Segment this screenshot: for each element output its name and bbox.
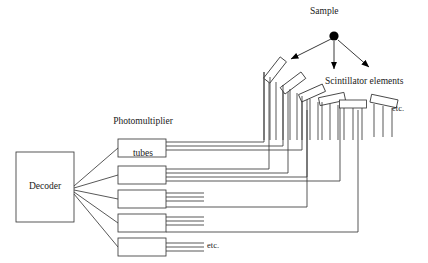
pmt-1-wires xyxy=(166,72,302,150)
pmt-3-wires xyxy=(166,107,340,201)
etc-label-right: etc. xyxy=(392,104,404,114)
photomultiplier-tubes-label: Photomultiplier tubes xyxy=(103,95,183,180)
pmt-label-line-1: Photomultiplier xyxy=(103,116,183,127)
pmt-box-5 xyxy=(118,238,166,256)
scintillator-element-4 xyxy=(318,92,345,140)
pmt-box-3 xyxy=(118,190,166,208)
diagram-vector-layer xyxy=(0,0,428,263)
arrow-right xyxy=(338,40,369,67)
scintillator-element-5 xyxy=(340,100,367,140)
diagram-canvas: Sample Scintillator elements Photomultip… xyxy=(0,0,428,263)
etc-label-bottom: etc. xyxy=(207,241,219,251)
scintillator-elements-label: Scintillator elements xyxy=(325,76,403,87)
sample-label: Sample xyxy=(310,6,339,17)
decoder-label: Decoder xyxy=(14,181,76,192)
scintillator-element-6 xyxy=(370,94,398,137)
pmt-5-wires xyxy=(166,110,358,251)
arrow-left xyxy=(291,39,331,59)
emission-arrows xyxy=(291,39,369,69)
sample-point xyxy=(329,31,338,40)
pmt-label-line-2: tubes xyxy=(103,148,183,159)
pmt-box-4 xyxy=(118,214,166,232)
pmt-4-wires xyxy=(166,110,307,225)
scintillator-element-3 xyxy=(298,84,325,140)
